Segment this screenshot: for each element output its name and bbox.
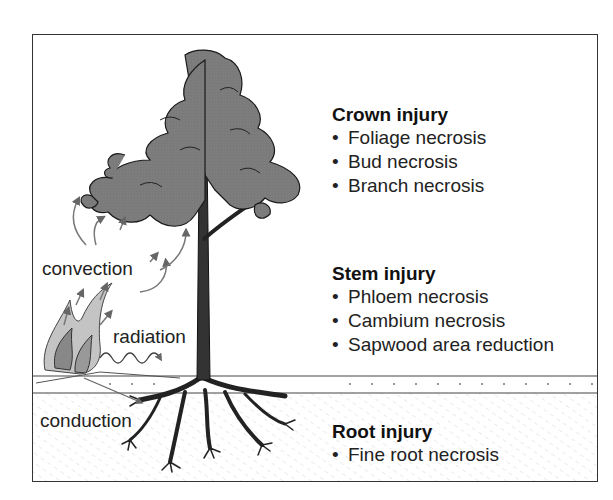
root-injury-list: •Fine root necrosis xyxy=(332,443,499,467)
radiation-label: radiation xyxy=(113,326,186,348)
bullet-icon: • xyxy=(332,443,348,467)
convection-label: convection xyxy=(42,258,133,280)
list-item: •Sapwood area reduction xyxy=(332,333,554,357)
list-item: •Bud necrosis xyxy=(332,150,486,174)
stem-injury-list: •Phloem necrosis •Cambium necrosis •Sapw… xyxy=(332,285,554,357)
root-injury-heading: Root injury xyxy=(332,420,499,443)
list-item: •Foliage necrosis xyxy=(332,126,486,150)
stem-injury-section: Stem injury •Phloem necrosis •Cambium ne… xyxy=(332,262,554,357)
list-item: •Phloem necrosis xyxy=(332,285,554,309)
bullet-icon: • xyxy=(332,285,348,309)
bullet-icon: • xyxy=(332,126,348,150)
bullet-icon: • xyxy=(332,309,348,333)
crown-injury-list: •Foliage necrosis •Bud necrosis •Branch … xyxy=(332,126,486,198)
bullet-icon: • xyxy=(332,174,348,198)
tree-crown-foliage xyxy=(81,50,300,226)
radiation-wave-arrow xyxy=(100,353,160,363)
stem-injury-heading: Stem injury xyxy=(332,262,554,285)
conduction-label: conduction xyxy=(40,410,132,432)
root-injury-section: Root injury •Fine root necrosis xyxy=(332,420,499,467)
crown-injury-section: Crown injury •Foliage necrosis •Bud necr… xyxy=(332,103,486,198)
list-item: •Fine root necrosis xyxy=(332,443,499,467)
list-item: •Branch necrosis xyxy=(332,174,486,198)
list-item: •Cambium necrosis xyxy=(332,309,554,333)
bullet-icon: • xyxy=(332,333,348,357)
crown-injury-heading: Crown injury xyxy=(332,103,486,126)
bullet-icon: • xyxy=(332,150,348,174)
